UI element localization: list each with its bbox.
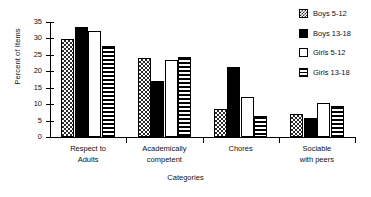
category-label-line: Respect to — [50, 144, 126, 155]
y-tick-label-0: 0 — [20, 132, 42, 141]
y-tick-label-35: 35 — [20, 17, 42, 26]
x-tick-3 — [279, 137, 280, 143]
x-tick-1 — [126, 137, 127, 143]
legend-swatch-icon — [299, 9, 308, 18]
legend-item: Boys 5-12 — [299, 4, 371, 24]
chart-legend: Boys 5-12Boys 13-18Girls 5-12Girls 13-18 — [299, 4, 371, 82]
legend-label: Girls 5-12 — [313, 48, 346, 57]
category-label-line: Adults — [50, 155, 126, 166]
category-label: Academicallycompetent — [126, 144, 202, 165]
legend-label: Girls 13-18 — [313, 68, 350, 77]
bar — [331, 106, 344, 137]
y-tick-label-20: 20 — [20, 66, 42, 75]
category-label-line: with peers — [279, 155, 355, 166]
x-tick-4 — [355, 137, 356, 143]
bar — [151, 81, 164, 137]
y-tick-label-25: 25 — [20, 50, 42, 59]
bar — [178, 57, 191, 138]
legend-swatch-icon — [299, 68, 308, 77]
category-label-line: competent — [126, 155, 202, 166]
bar — [102, 46, 115, 137]
bar — [254, 116, 267, 137]
legend-label: Boys 5-12 — [313, 9, 347, 18]
legend-label: Boys 13-18 — [313, 29, 351, 38]
y-tick-label-5: 5 — [20, 116, 42, 125]
legend-item: Girls 5-12 — [299, 43, 371, 63]
bar-chart: Percent of Items 05101520253035 Respect … — [0, 0, 371, 197]
bar — [317, 103, 330, 137]
bar — [138, 58, 151, 137]
category-label: Sociablewith peers — [279, 144, 355, 165]
category-label-line: Sociable — [279, 144, 355, 155]
legend-item: Girls 13-18 — [299, 63, 371, 83]
legend-swatch-icon — [299, 48, 308, 57]
bar — [227, 67, 240, 137]
category-label-line: Chores — [203, 144, 279, 155]
bar-group — [126, 22, 202, 137]
x-tick-2 — [203, 137, 204, 143]
bar — [304, 118, 317, 137]
bar — [75, 27, 88, 137]
bar — [241, 97, 254, 137]
bar — [290, 114, 303, 137]
y-tick-label-10: 10 — [20, 99, 42, 108]
category-label-line: Academically — [126, 144, 202, 155]
legend-swatch-icon — [299, 29, 308, 38]
bar-group — [50, 22, 126, 137]
bar — [214, 109, 227, 137]
bar-group — [203, 22, 279, 137]
legend-item: Boys 13-18 — [299, 24, 371, 44]
y-tick-label-30: 30 — [20, 33, 42, 42]
bar — [165, 60, 178, 137]
y-tick-label-15: 15 — [20, 83, 42, 92]
y-tick-0: 0 — [46, 137, 54, 138]
bar — [88, 31, 101, 137]
category-label: Respect toAdults — [50, 144, 126, 165]
category-label: Chores — [203, 144, 279, 155]
x-axis-title: Categories — [0, 173, 371, 182]
bar — [61, 39, 74, 137]
